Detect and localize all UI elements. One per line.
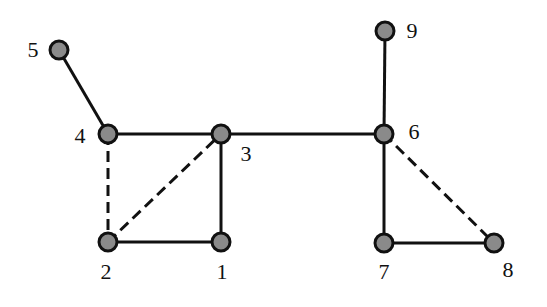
- edge-2-3-dashed: [108, 134, 221, 242]
- node-7: [375, 234, 393, 252]
- node-label-4: 4: [75, 123, 86, 148]
- node-label-3: 3: [241, 141, 252, 166]
- edge-5-4: [59, 50, 108, 134]
- edge-6-8-dashed: [384, 134, 494, 243]
- node-1: [212, 233, 230, 251]
- node-2: [99, 233, 117, 251]
- node-6: [375, 125, 393, 143]
- edges-layer: [59, 31, 494, 243]
- node-label-9: 9: [407, 18, 418, 43]
- node-label-7: 7: [379, 259, 390, 284]
- node-9: [376, 22, 394, 40]
- graph-diagram: 123456789: [0, 0, 547, 307]
- node-label-6: 6: [409, 119, 420, 144]
- nodes-layer: [50, 22, 503, 252]
- node-8: [485, 234, 503, 252]
- node-4: [99, 125, 117, 143]
- node-5: [50, 41, 68, 59]
- node-label-1: 1: [217, 259, 228, 284]
- edge-9-6: [384, 31, 385, 134]
- node-label-8: 8: [503, 257, 514, 282]
- node-label-5: 5: [28, 37, 39, 62]
- node-label-2: 2: [101, 259, 112, 284]
- node-3: [212, 125, 230, 143]
